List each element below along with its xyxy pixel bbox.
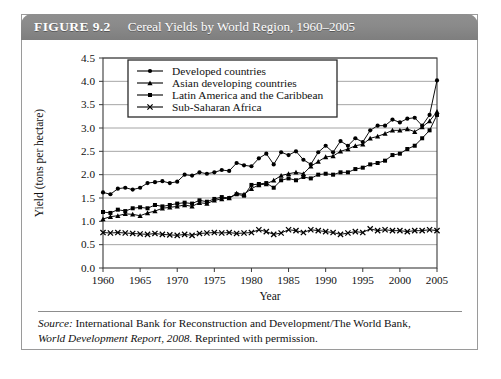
data-point-circle [108, 192, 112, 196]
data-point-square [346, 170, 350, 174]
data-point-square [183, 201, 187, 205]
data-point-triangle [293, 170, 298, 175]
data-point-square [324, 172, 328, 176]
figure-title: Cereal Yields by World Region, 1960–2005 [128, 19, 355, 35]
x-tick-label: 1980 [240, 274, 263, 286]
y-tick-label: 2.5 [81, 145, 95, 157]
data-point-square [287, 176, 291, 180]
data-point-circle [368, 128, 372, 132]
data-point-square [227, 196, 231, 200]
data-point-square [413, 144, 417, 148]
data-point-circle [123, 186, 127, 190]
data-point-circle [316, 150, 320, 154]
data-point-circle [264, 152, 268, 156]
data-point-circle [413, 116, 417, 120]
data-point-circle [190, 174, 194, 178]
y-axis-title: Yield (tons per hectare) [33, 109, 46, 217]
data-point-square [428, 128, 432, 132]
data-point-square [257, 182, 261, 186]
x-axis-title: Year [259, 290, 280, 302]
data-point-circle [390, 118, 394, 122]
y-tick-label: 4.0 [81, 75, 95, 87]
data-point-circle [148, 69, 152, 73]
data-point-square [405, 147, 409, 151]
data-point-circle [116, 187, 120, 191]
data-point-circle [242, 163, 246, 167]
data-point-circle [301, 158, 305, 162]
x-axis: 1960196519701975198019851990199520002005 [92, 268, 449, 286]
data-point-circle [168, 181, 172, 185]
data-point-square [420, 136, 424, 140]
data-point-square [264, 181, 268, 185]
data-point-circle [338, 139, 342, 143]
data-point-circle [205, 172, 209, 176]
data-point-square [316, 173, 320, 177]
source-divider [38, 311, 462, 312]
data-point-square [131, 206, 135, 210]
data-point-circle [279, 150, 283, 154]
x-tick-label: 1970 [166, 274, 189, 286]
legend-label: Sub-Saharan Africa [172, 101, 262, 113]
data-point-circle [138, 186, 142, 190]
data-point-circle [235, 161, 239, 165]
legend-label: Asian developing countries [172, 77, 297, 89]
series-triangle [100, 109, 439, 221]
data-point-circle [427, 113, 431, 117]
data-point-square [361, 166, 365, 170]
data-point-square [153, 203, 157, 207]
data-point-square [353, 167, 357, 171]
data-point-triangle [405, 126, 410, 131]
data-point-square [376, 161, 380, 165]
data-point-square [175, 202, 179, 206]
legend-label: Developed countries [172, 65, 267, 77]
data-point-square [272, 186, 276, 190]
y-tick-label: 0.5 [81, 238, 95, 250]
data-point-square [301, 175, 305, 179]
data-point-triangle [316, 159, 321, 164]
x-tick-label: 1985 [277, 274, 300, 286]
legend-label: Latin America and the Caribbean [172, 89, 323, 101]
y-tick-label: 1.5 [81, 192, 95, 204]
data-point-circle [398, 120, 402, 124]
source-line-1-rest: International Bank for Reconstruction an… [73, 317, 411, 329]
data-point-square [116, 208, 120, 212]
cereal-yields-line-chart: 0.00.51.01.52.02.53.03.54.04.51960196519… [21, 40, 478, 306]
data-point-square [242, 194, 246, 198]
data-point-square [331, 173, 335, 177]
data-point-square [309, 176, 313, 180]
source-line-2: World Development Report, 2008. Reprinte… [38, 331, 464, 346]
y-tick-label: 0.0 [81, 262, 95, 274]
data-point-square [435, 113, 439, 117]
data-point-circle [405, 117, 409, 121]
source-report-title: World Development Report, 2008. [38, 332, 192, 344]
data-point-circle [353, 136, 357, 140]
data-point-circle [383, 124, 387, 128]
data-point-circle [272, 162, 276, 166]
data-point-square [249, 183, 253, 187]
data-point-square [197, 198, 201, 202]
y-tick-label: 4.5 [81, 52, 95, 64]
data-point-square [138, 205, 142, 209]
x-tick-label: 1965 [129, 274, 152, 286]
source-note: Source: International Bank for Reconstru… [38, 316, 464, 346]
x-tick-label: 1960 [92, 274, 115, 286]
data-point-triangle [271, 178, 276, 183]
data-point-circle [145, 181, 149, 185]
y-tick-label: 3.5 [81, 98, 95, 110]
data-point-circle [212, 170, 216, 174]
data-point-square [212, 197, 216, 201]
y-axis: 0.00.51.01.52.02.53.03.54.04.5 [81, 52, 103, 274]
data-point-square [383, 159, 387, 163]
data-point-square [160, 204, 164, 208]
data-point-square [205, 200, 209, 204]
data-point-circle [324, 144, 328, 148]
data-point-circle [131, 188, 135, 192]
chart-legend: Developed countriesAsian developing coun… [128, 60, 337, 117]
data-point-square [368, 162, 372, 166]
data-point-circle [249, 164, 253, 168]
series-x [100, 226, 439, 238]
data-point-square [101, 210, 105, 214]
data-point-circle [197, 170, 201, 174]
data-point-square [168, 203, 172, 207]
data-point-square [146, 206, 150, 210]
